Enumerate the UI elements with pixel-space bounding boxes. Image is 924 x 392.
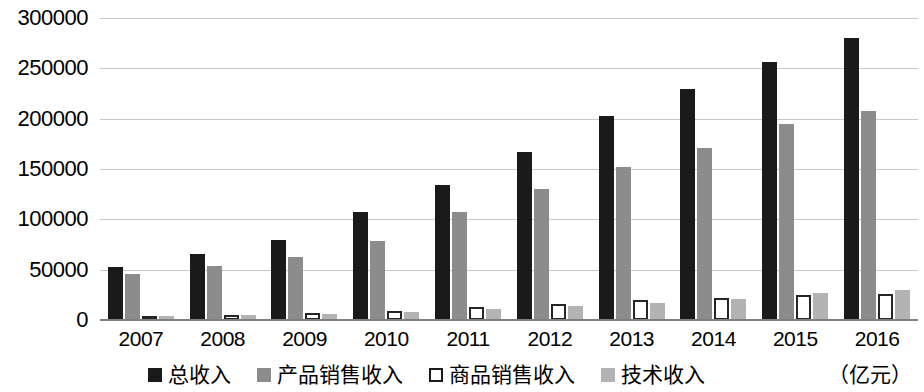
x-tick-label: 2011: [427, 325, 509, 353]
bar-group: [100, 18, 182, 320]
bar: [271, 240, 286, 320]
legend-item[interactable]: 总收入: [148, 365, 231, 386]
bar: [517, 152, 532, 320]
bar: [650, 303, 665, 320]
bar-group: [427, 18, 509, 320]
bar: [714, 298, 729, 320]
bar-group: [345, 18, 427, 320]
y-tick-label: 300000: [18, 7, 88, 29]
bar: [353, 212, 368, 320]
legend-swatch-icon: [148, 368, 162, 382]
x-axis: 2007200820092010201120122013201420152016: [100, 325, 918, 353]
legend-swatch-icon: [601, 368, 615, 382]
y-tick-label: 200000: [18, 108, 88, 130]
x-tick-label: 2016: [836, 325, 918, 353]
bar-groups: [100, 18, 918, 320]
legend-item[interactable]: 商品销售收入: [429, 365, 575, 386]
y-tick-label: 0: [76, 309, 88, 331]
bar: [861, 111, 876, 320]
bar: [878, 294, 893, 320]
bar: [599, 116, 614, 320]
unit-label: （亿元）: [828, 365, 912, 386]
legend-label: 商品销售收入: [449, 365, 575, 386]
bar: [779, 124, 794, 320]
bar: [844, 38, 859, 320]
legend-item[interactable]: 产品销售收入: [257, 365, 403, 386]
bar: [813, 293, 828, 320]
bar: [680, 89, 695, 320]
bar: [633, 300, 648, 320]
bar-group: [836, 18, 918, 320]
bar: [288, 257, 303, 320]
bar: [435, 185, 450, 320]
x-tick-label: 2007: [100, 325, 182, 353]
x-tick-label: 2014: [673, 325, 755, 353]
x-tick-label: 2010: [345, 325, 427, 353]
bar-group: [673, 18, 755, 320]
bar: [207, 266, 222, 320]
y-tick-label: 50000: [29, 259, 88, 281]
x-tick-label: 2008: [182, 325, 264, 353]
x-tick-label: 2009: [264, 325, 346, 353]
legend-swatch-icon: [257, 368, 271, 382]
legend-label: 产品销售收入: [277, 365, 403, 386]
bar-chart: 300000250000200000150000100000500000 200…: [0, 0, 924, 392]
bar: [551, 304, 566, 320]
legend-label: 总收入: [168, 365, 231, 386]
bar: [731, 299, 746, 320]
legend-item[interactable]: 技术收入: [601, 365, 705, 386]
x-tick-label: 2012: [509, 325, 591, 353]
y-tick-label: 100000: [18, 208, 88, 230]
bar: [895, 290, 910, 320]
y-axis: 300000250000200000150000100000500000: [0, 0, 96, 330]
bar-group: [509, 18, 591, 320]
x-tick-label: 2013: [591, 325, 673, 353]
y-tick-label: 250000: [18, 57, 88, 79]
bar: [697, 148, 712, 320]
x-axis-line: [100, 319, 918, 321]
legend-swatch-icon: [429, 368, 443, 382]
x-tick-label: 2015: [754, 325, 836, 353]
bar-group: [754, 18, 836, 320]
bar-group: [264, 18, 346, 320]
plot-area: [100, 18, 918, 320]
bar: [534, 189, 549, 320]
bar-group: [182, 18, 264, 320]
bar: [452, 212, 467, 320]
bar: [190, 254, 205, 320]
bar: [108, 267, 123, 320]
bar-group: [591, 18, 673, 320]
bar: [616, 167, 631, 320]
bar: [796, 295, 811, 320]
bar: [762, 62, 777, 320]
bar: [125, 274, 140, 320]
bar: [568, 306, 583, 320]
bar: [370, 241, 385, 320]
y-tick-label: 150000: [18, 158, 88, 180]
legend: 总收入产品销售收入商品销售收入技术收入 （亿元）: [0, 358, 924, 392]
legend-items: 总收入产品销售收入商品销售收入技术收入: [148, 365, 705, 386]
legend-label: 技术收入: [621, 365, 705, 386]
